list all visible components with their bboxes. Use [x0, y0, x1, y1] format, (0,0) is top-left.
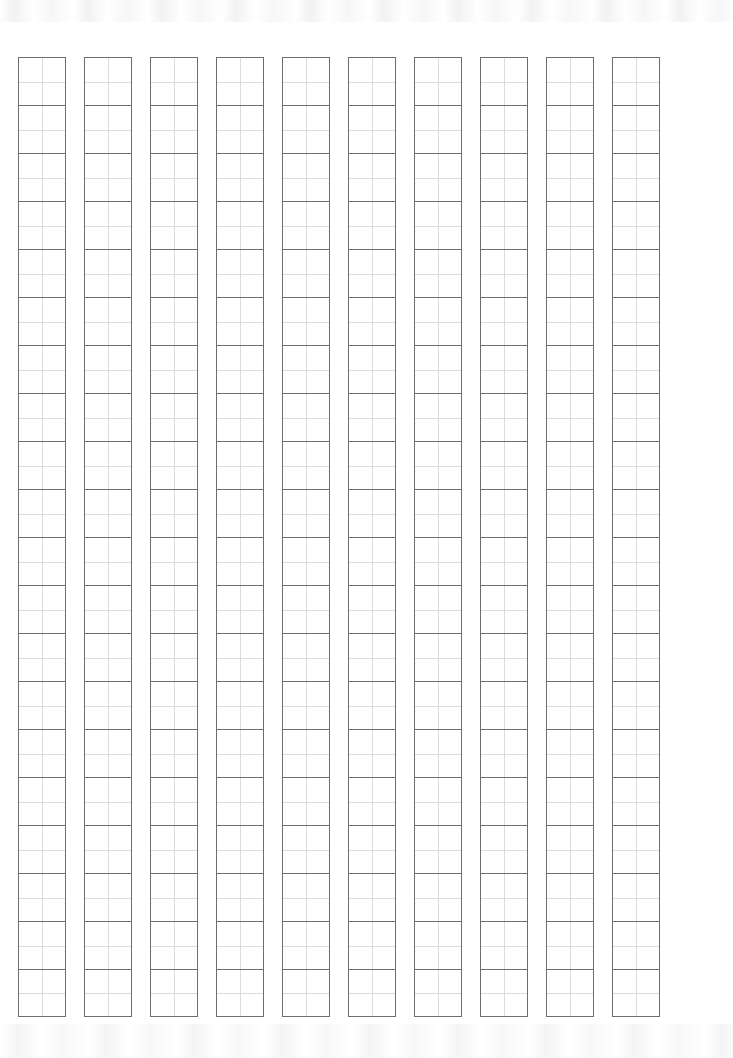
manuscript-cell[interactable] — [216, 105, 264, 153]
manuscript-cell[interactable] — [282, 201, 330, 249]
manuscript-cell[interactable] — [414, 585, 462, 633]
manuscript-cell[interactable] — [480, 393, 528, 441]
manuscript-cell[interactable] — [84, 681, 132, 729]
manuscript-cell[interactable] — [150, 729, 198, 777]
manuscript-cell[interactable] — [546, 921, 594, 969]
manuscript-cell[interactable] — [18, 873, 66, 921]
manuscript-cell[interactable] — [612, 777, 660, 825]
manuscript-cell[interactable] — [546, 57, 594, 105]
manuscript-cell[interactable] — [84, 57, 132, 105]
manuscript-cell[interactable] — [546, 345, 594, 393]
manuscript-cell[interactable] — [546, 825, 594, 873]
manuscript-cell[interactable] — [216, 681, 264, 729]
manuscript-cell[interactable] — [414, 681, 462, 729]
manuscript-cell[interactable] — [348, 441, 396, 489]
manuscript-cell[interactable] — [84, 921, 132, 969]
manuscript-cell[interactable] — [18, 921, 66, 969]
manuscript-cell[interactable] — [414, 201, 462, 249]
manuscript-cell[interactable] — [18, 441, 66, 489]
manuscript-cell[interactable] — [480, 585, 528, 633]
manuscript-cell[interactable] — [612, 297, 660, 345]
manuscript-cell[interactable] — [348, 537, 396, 585]
manuscript-cell[interactable] — [480, 297, 528, 345]
manuscript-cell[interactable] — [84, 729, 132, 777]
manuscript-cell[interactable] — [282, 825, 330, 873]
manuscript-cell[interactable] — [480, 681, 528, 729]
manuscript-cell[interactable] — [348, 345, 396, 393]
manuscript-cell[interactable] — [348, 777, 396, 825]
manuscript-cell[interactable] — [216, 489, 264, 537]
manuscript-cell[interactable] — [612, 105, 660, 153]
manuscript-cell[interactable] — [84, 201, 132, 249]
manuscript-cell[interactable] — [546, 153, 594, 201]
manuscript-cell[interactable] — [348, 105, 396, 153]
manuscript-cell[interactable] — [414, 393, 462, 441]
manuscript-cell[interactable] — [216, 201, 264, 249]
manuscript-cell[interactable] — [216, 585, 264, 633]
manuscript-cell[interactable] — [348, 489, 396, 537]
manuscript-cell[interactable] — [480, 441, 528, 489]
manuscript-cell[interactable] — [150, 633, 198, 681]
manuscript-cell[interactable] — [612, 729, 660, 777]
manuscript-cell[interactable] — [282, 729, 330, 777]
manuscript-cell[interactable] — [18, 729, 66, 777]
manuscript-cell[interactable] — [414, 777, 462, 825]
manuscript-cell[interactable] — [150, 345, 198, 393]
manuscript-cell[interactable] — [84, 873, 132, 921]
manuscript-cell[interactable] — [18, 585, 66, 633]
manuscript-cell[interactable] — [216, 729, 264, 777]
manuscript-cell[interactable] — [414, 57, 462, 105]
manuscript-cell[interactable] — [282, 393, 330, 441]
manuscript-cell[interactable] — [18, 105, 66, 153]
manuscript-cell[interactable] — [18, 537, 66, 585]
manuscript-cell[interactable] — [348, 393, 396, 441]
manuscript-cell[interactable] — [480, 489, 528, 537]
manuscript-cell[interactable] — [84, 777, 132, 825]
manuscript-cell[interactable] — [612, 825, 660, 873]
manuscript-cell[interactable] — [546, 105, 594, 153]
manuscript-cell[interactable] — [84, 345, 132, 393]
manuscript-cell[interactable] — [216, 441, 264, 489]
manuscript-cell[interactable] — [414, 153, 462, 201]
manuscript-cell[interactable] — [150, 441, 198, 489]
manuscript-cell[interactable] — [480, 153, 528, 201]
manuscript-cell[interactable] — [216, 153, 264, 201]
manuscript-cell[interactable] — [150, 585, 198, 633]
manuscript-cell[interactable] — [282, 921, 330, 969]
manuscript-cell[interactable] — [282, 585, 330, 633]
manuscript-cell[interactable] — [348, 729, 396, 777]
manuscript-cell[interactable] — [348, 825, 396, 873]
manuscript-cell[interactable] — [18, 249, 66, 297]
manuscript-cell[interactable] — [546, 969, 594, 1017]
manuscript-cell[interactable] — [282, 345, 330, 393]
manuscript-cell[interactable] — [546, 681, 594, 729]
manuscript-cell[interactable] — [84, 537, 132, 585]
manuscript-cell[interactable] — [216, 873, 264, 921]
manuscript-cell[interactable] — [348, 153, 396, 201]
manuscript-cell[interactable] — [282, 537, 330, 585]
manuscript-cell[interactable] — [18, 681, 66, 729]
manuscript-cell[interactable] — [348, 969, 396, 1017]
manuscript-cell[interactable] — [84, 825, 132, 873]
manuscript-cell[interactable] — [414, 345, 462, 393]
manuscript-cell[interactable] — [612, 633, 660, 681]
manuscript-cell[interactable] — [546, 729, 594, 777]
manuscript-cell[interactable] — [282, 441, 330, 489]
manuscript-cell[interactable] — [414, 825, 462, 873]
manuscript-cell[interactable] — [414, 969, 462, 1017]
manuscript-cell[interactable] — [216, 969, 264, 1017]
manuscript-cell[interactable] — [150, 105, 198, 153]
manuscript-cell[interactable] — [216, 57, 264, 105]
manuscript-cell[interactable] — [546, 393, 594, 441]
manuscript-cell[interactable] — [348, 681, 396, 729]
manuscript-cell[interactable] — [18, 345, 66, 393]
manuscript-cell[interactable] — [18, 201, 66, 249]
manuscript-cell[interactable] — [150, 57, 198, 105]
manuscript-cell[interactable] — [612, 345, 660, 393]
manuscript-cell[interactable] — [18, 297, 66, 345]
manuscript-cell[interactable] — [414, 537, 462, 585]
manuscript-cell[interactable] — [480, 873, 528, 921]
manuscript-cell[interactable] — [546, 537, 594, 585]
manuscript-cell[interactable] — [18, 393, 66, 441]
manuscript-cell[interactable] — [612, 681, 660, 729]
